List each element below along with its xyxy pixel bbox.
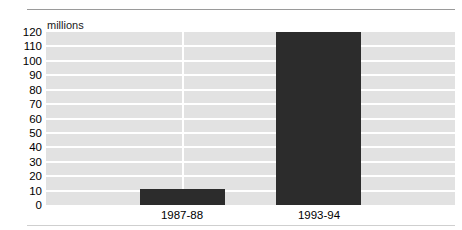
y-axis-tick: 20 (29, 171, 42, 182)
gridline-horizontal (46, 60, 455, 62)
gridline-horizontal (46, 45, 455, 47)
y-axis-tick: 80 (29, 84, 42, 95)
top-divider-rule (27, 9, 455, 10)
y-axis-tick: 110 (24, 41, 42, 52)
y-axis-tick: 90 (29, 70, 42, 81)
gridline-horizontal (46, 74, 455, 76)
unit-axis-caption: millions (47, 19, 84, 31)
plot-area (46, 32, 455, 205)
gridline-horizontal (46, 118, 455, 120)
y-axis-tick: 0 (36, 200, 42, 211)
x-axis-tick: 1993-94 (298, 208, 340, 222)
gridline-horizontal (46, 190, 455, 192)
bar (276, 32, 361, 205)
bar (140, 189, 225, 205)
y-axis-tick: 50 (29, 127, 42, 138)
gridline-vertical (182, 32, 184, 205)
y-axis-tick: 10 (29, 185, 42, 196)
y-axis-tick: 70 (29, 99, 42, 110)
y-axis-tick: 120 (23, 27, 42, 38)
y-axis-tick: 60 (29, 113, 42, 124)
y-axis-tick: 100 (23, 55, 42, 66)
gridline-horizontal (46, 146, 455, 148)
bottom-divider-rule (27, 225, 455, 226)
gridline-horizontal (46, 103, 455, 105)
gridline-horizontal (46, 132, 455, 134)
y-axis-tick: 40 (29, 142, 42, 153)
y-axis-tick: 30 (29, 156, 42, 167)
y-axis-tick-labels: 0102030405060708090100110120 (0, 32, 42, 205)
x-axis-tick-labels: 1987-881993-94 (46, 208, 455, 224)
gridline-horizontal (46, 89, 455, 91)
gridline-horizontal (46, 161, 455, 163)
gridline-horizontal (46, 175, 455, 177)
bar-chart: millions 0102030405060708090100110120 19… (0, 0, 462, 230)
x-axis-tick: 1987-88 (161, 208, 203, 222)
